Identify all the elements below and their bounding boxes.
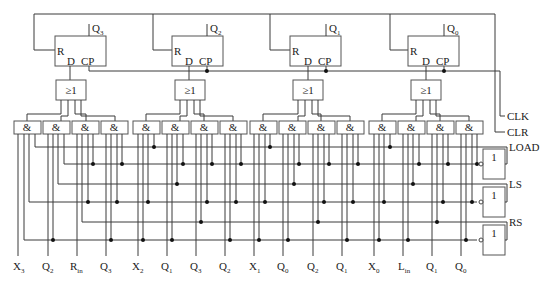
svg-text:≥1: ≥1 — [65, 84, 77, 96]
svg-text:R: R — [410, 45, 418, 57]
svg-text:CP: CP — [436, 55, 449, 67]
svg-text:1: 1 — [491, 189, 497, 201]
svg-text:Q1: Q1 — [336, 260, 348, 275]
not-gate-load: 1 — [479, 147, 507, 179]
and-gates: & & & & & & & & & & & & & & & & — [14, 121, 483, 134]
svg-text:≥1: ≥1 — [420, 84, 432, 96]
svg-text:D: D — [422, 55, 430, 67]
or-gate-2: ≥1 — [175, 80, 205, 100]
and-control-stubs — [24, 134, 477, 240]
svg-text:X0: X0 — [368, 260, 380, 275]
or-gate-3: ≥1 — [56, 80, 86, 100]
svg-text:Q1: Q1 — [329, 22, 341, 37]
svg-text:D: D — [304, 55, 312, 67]
or-gate-0: ≥1 — [411, 80, 441, 100]
rs-label: RS — [509, 216, 522, 228]
svg-text:R: R — [174, 45, 182, 57]
svg-text:R: R — [292, 45, 300, 57]
svg-text:&: & — [288, 121, 297, 133]
svg-text:Q3: Q3 — [190, 260, 202, 275]
svg-text:&: & — [110, 121, 119, 133]
svg-text:Q0: Q0 — [277, 260, 289, 275]
svg-text:X3: X3 — [13, 260, 25, 275]
svg-text:Q2: Q2 — [210, 22, 222, 37]
flipflop-q0: Q0 R D CP — [408, 22, 459, 67]
svg-text:≥1: ≥1 — [184, 84, 196, 96]
svg-text:&: & — [436, 121, 445, 133]
clr-label: CLR — [507, 126, 529, 138]
svg-text:1: 1 — [491, 151, 497, 163]
ls-label: LS — [509, 178, 522, 190]
svg-text:≥1: ≥1 — [302, 84, 314, 96]
svg-text:&: & — [81, 121, 90, 133]
svg-text:Q3: Q3 — [92, 22, 104, 37]
svg-text:&: & — [171, 121, 180, 133]
svg-text:D: D — [67, 55, 75, 67]
svg-text:Q2: Q2 — [42, 260, 54, 275]
svg-text:&: & — [407, 121, 416, 133]
svg-text:&: & — [52, 121, 61, 133]
svg-text:CP: CP — [81, 55, 94, 67]
svg-text:X2: X2 — [132, 260, 144, 275]
svg-text:D: D — [185, 55, 193, 67]
svg-text:&: & — [200, 121, 209, 133]
svg-text:Q0: Q0 — [455, 260, 467, 275]
svg-text:Q1: Q1 — [426, 260, 438, 275]
svg-text:Q0: Q0 — [447, 22, 459, 37]
flipflop-q3: Q3 R D CP — [55, 22, 106, 67]
svg-text:&: & — [317, 121, 326, 133]
bottom-labels: X3 Q2 Rin Q3 X2 Q1 Q3 Q2 X1 Q0 Q2 Q1 X0 … — [13, 260, 467, 275]
svg-text:&: & — [142, 121, 151, 133]
svg-text:Rin: Rin — [70, 260, 83, 275]
svg-text:Lin: Lin — [398, 260, 411, 275]
input-lines — [18, 134, 461, 256]
load-label: LOAD — [509, 141, 540, 153]
not-gate-ls: 1 — [479, 184, 507, 217]
svg-text:Q3: Q3 — [100, 260, 112, 275]
clk-label: CLK — [507, 110, 529, 122]
svg-text:&: & — [229, 121, 238, 133]
svg-text:&: & — [23, 121, 32, 133]
svg-text:CP: CP — [318, 55, 331, 67]
not-gate-rs: 1 — [479, 222, 507, 255]
svg-text:&: & — [259, 121, 268, 133]
svg-text:Q2: Q2 — [307, 260, 319, 275]
svg-text:1: 1 — [491, 227, 497, 239]
svg-text:CP: CP — [199, 55, 212, 67]
svg-text:&: & — [346, 121, 355, 133]
svg-text:R: R — [57, 45, 65, 57]
flipflop-q2: Q2 R D CP — [172, 22, 223, 67]
svg-text:Q1: Q1 — [161, 260, 173, 275]
svg-text:Q2: Q2 — [219, 260, 231, 275]
or-and-wiring — [27, 100, 469, 121]
svg-text:&: & — [378, 121, 387, 133]
svg-text:X1: X1 — [249, 260, 261, 275]
flipflop-q1: Q1 R D CP — [290, 22, 341, 67]
or-gate-1: ≥1 — [293, 80, 323, 100]
svg-text:&: & — [465, 121, 474, 133]
shift-register-diagram: Q3 R D CP Q2 R D CP Q1 R D CP Q0 R D CP … — [0, 0, 550, 282]
